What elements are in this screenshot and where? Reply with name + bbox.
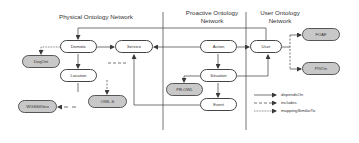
node-location[interactable]: Location: [60, 69, 97, 82]
node-wgs84geo[interactable]: WGS84Geo: [18, 100, 57, 113]
node-foaf[interactable]: FOAF: [302, 28, 340, 41]
section-title-user: User Ontology Network: [250, 9, 310, 24]
section-title-user-line1: User Ontology: [250, 9, 310, 17]
edge-situation-user: [237, 55, 268, 76]
node-owl-s[interactable]: OWL-S: [88, 95, 127, 108]
section-title-user-line2: Network: [250, 17, 310, 25]
section-title-physical: Physical Ontology Network: [50, 13, 142, 21]
ontology-network-diagram: Physical Ontology Network Proactive Onto…: [0, 0, 359, 143]
legend-label-includes: includes: [281, 100, 297, 105]
section-title-proactive-line1: Proactive Ontology: [172, 9, 252, 17]
node-user[interactable]: User: [250, 40, 282, 53]
node-service[interactable]: Service: [115, 40, 153, 53]
edge-domotic-dogont: [41, 47, 60, 54]
node-situation[interactable]: Situation: [200, 69, 237, 82]
node-event[interactable]: Event: [200, 98, 237, 111]
edge-event-service: [134, 55, 200, 105]
legend-label-mappingsimilarto: mappingSimilarTo: [281, 108, 315, 113]
node-dogont[interactable]: DogOnt: [22, 55, 60, 68]
node-pivon[interactable]: PIVOn: [302, 62, 340, 75]
node-pr-owl[interactable]: PR-OWL: [166, 83, 203, 96]
section-title-proactive: Proactive Ontology Network: [172, 9, 252, 24]
section-title-proactive-line2: Network: [172, 17, 252, 25]
node-action[interactable]: Action: [200, 40, 237, 53]
node-domotic[interactable]: Domotic: [60, 40, 97, 53]
legend-label-dependson: dependsOn: [281, 92, 303, 97]
edge-user-domotic: [78, 28, 266, 40]
edge-situation-prowl: [184, 76, 200, 82]
